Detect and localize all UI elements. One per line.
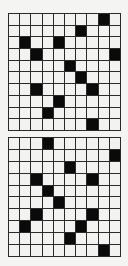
grid-cell[interactable] [54, 72, 64, 83]
grid-cell[interactable] [20, 26, 30, 37]
grid-cell[interactable] [54, 209, 64, 220]
grid-cell[interactable] [20, 150, 30, 161]
grid-cell[interactable] [31, 221, 41, 232]
grid-cell-filled[interactable] [110, 150, 120, 161]
grid-cell[interactable] [43, 72, 53, 83]
grid-cell[interactable] [43, 221, 53, 232]
grid-cell[interactable] [87, 108, 97, 119]
grid-cell[interactable] [31, 108, 41, 119]
grid-cell[interactable] [76, 174, 86, 185]
grid-cell[interactable] [31, 162, 41, 173]
grid-cell[interactable] [87, 245, 97, 256]
grid-cell[interactable] [110, 138, 120, 149]
grid-cell-filled[interactable] [31, 49, 41, 60]
grid-cell[interactable] [110, 209, 120, 220]
grid-cell[interactable] [43, 49, 53, 60]
grid-cell[interactable] [43, 245, 53, 256]
grid-cell[interactable] [65, 37, 75, 48]
grid-cell[interactable] [31, 37, 41, 48]
grid-cell[interactable] [87, 37, 97, 48]
grid-cell[interactable] [31, 186, 41, 197]
grid-cell[interactable] [20, 233, 30, 244]
grid-cell[interactable] [20, 245, 30, 256]
grid-cell[interactable] [20, 96, 30, 107]
grid-cell[interactable] [110, 37, 120, 48]
grid-cell[interactable] [87, 61, 97, 72]
grid-cell[interactable] [20, 49, 30, 60]
grid-cell[interactable] [99, 138, 109, 149]
grid-cell[interactable] [87, 233, 97, 244]
grid-cell[interactable] [87, 138, 97, 149]
grid-cell[interactable] [65, 108, 75, 119]
grid-cell[interactable] [76, 49, 86, 60]
grid-cell[interactable] [76, 233, 86, 244]
grid-cell[interactable] [65, 26, 75, 37]
grid-cell[interactable] [54, 138, 64, 149]
grid-cell-filled[interactable] [76, 72, 86, 83]
grid-cell[interactable] [20, 84, 30, 95]
grid-cell[interactable] [65, 84, 75, 95]
grid-cell[interactable] [110, 96, 120, 107]
grid-cell[interactable] [9, 162, 19, 173]
grid-cell[interactable] [54, 221, 64, 232]
grid-cell[interactable] [99, 186, 109, 197]
grid-cell[interactable] [99, 197, 109, 208]
grid-cell-filled[interactable] [87, 174, 97, 185]
grid-cell-filled[interactable] [20, 37, 30, 48]
grid-cell[interactable] [54, 162, 64, 173]
grid-cell-filled[interactable] [65, 162, 75, 173]
grid-cell[interactable] [20, 197, 30, 208]
grid-cell[interactable] [76, 14, 86, 25]
grid-cell-filled[interactable] [110, 49, 120, 60]
grid-cell[interactable] [20, 61, 30, 72]
grid-cell[interactable] [54, 245, 64, 256]
grid-cell[interactable] [76, 186, 86, 197]
grid-cell-filled[interactable] [87, 209, 97, 220]
grid-cell-filled[interactable] [43, 138, 53, 149]
grid-cell[interactable] [54, 49, 64, 60]
grid-cell[interactable] [9, 245, 19, 256]
grid-cell-filled[interactable] [31, 84, 41, 95]
grid-cell[interactable] [76, 197, 86, 208]
grid-cell[interactable] [31, 245, 41, 256]
grid-cell-filled[interactable] [20, 221, 30, 232]
grid-cell[interactable] [9, 84, 19, 95]
grid-cell[interactable] [54, 26, 64, 37]
grid-cell[interactable] [110, 26, 120, 37]
grid-cell[interactable] [110, 108, 120, 119]
grid-cell[interactable] [87, 186, 97, 197]
grid-cell[interactable] [99, 119, 109, 130]
grid-cell[interactable] [110, 119, 120, 130]
grid-cell[interactable] [43, 119, 53, 130]
grid-cell-filled[interactable] [65, 233, 75, 244]
grid-cell[interactable] [65, 150, 75, 161]
grid-cell[interactable] [54, 108, 64, 119]
grid-cell[interactable] [43, 150, 53, 161]
grid-cell[interactable] [43, 162, 53, 173]
grid-cell[interactable] [65, 209, 75, 220]
grid-cell[interactable] [65, 49, 75, 60]
grid-cell[interactable] [9, 209, 19, 220]
grid-cell[interactable] [43, 37, 53, 48]
grid-cell[interactable] [20, 119, 30, 130]
grid-cell[interactable] [99, 233, 109, 244]
grid-cell-filled[interactable] [76, 221, 86, 232]
grid-cell[interactable] [65, 221, 75, 232]
grid-cell[interactable] [9, 119, 19, 130]
grid-cell[interactable] [20, 108, 30, 119]
grid-cell[interactable] [43, 26, 53, 37]
grid-cell[interactable] [43, 197, 53, 208]
grid-cell[interactable] [54, 14, 64, 25]
grid-cell[interactable] [31, 138, 41, 149]
grid-cell[interactable] [31, 233, 41, 244]
grid-cell[interactable] [110, 84, 120, 95]
grid-cell[interactable] [76, 209, 86, 220]
grid-cell[interactable] [43, 233, 53, 244]
grid-cell[interactable] [76, 37, 86, 48]
grid-cell-filled[interactable] [54, 197, 64, 208]
grid-cell[interactable] [110, 245, 120, 256]
grid-cell[interactable] [31, 150, 41, 161]
grid-cell[interactable] [87, 14, 97, 25]
grid-cell[interactable] [20, 209, 30, 220]
grid-cell-filled[interactable] [43, 186, 53, 197]
